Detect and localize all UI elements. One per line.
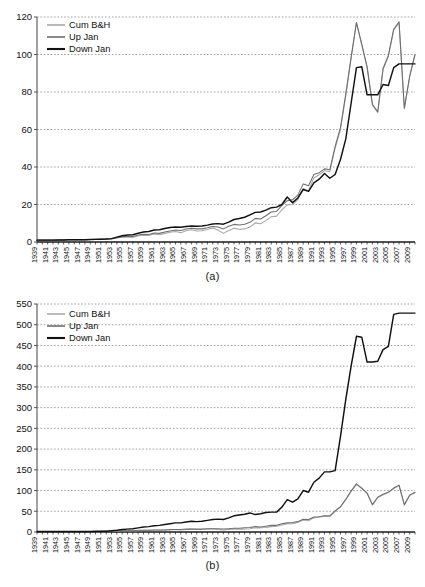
x-tick-label: 1965 [168,247,177,263]
x-tick-label: 1943 [51,247,60,263]
y-tick-label: 200 [16,443,32,454]
x-tick-label: 2005 [381,247,390,263]
x-tick-label: 1955 [115,247,124,263]
legend-label-0: Cum B&H [69,309,110,319]
x-tick-label: 2003 [371,537,380,553]
x-tick-label: 1959 [136,537,145,553]
x-tick-label: 1967 [179,537,188,553]
x-tick-label: 1965 [168,537,177,553]
figure-container: 0204060801001201939194119431945194719491… [0,0,425,587]
x-tick-label: 1949 [83,537,92,553]
x-tick-label: 1949 [83,247,92,263]
chart-panel-b: 0501001502002503003504004505005501939194… [0,290,425,587]
x-tick-label: 1945 [62,537,71,553]
x-tick-label: 1951 [94,247,103,263]
x-tick-label: 1995 [328,247,337,263]
y-ticks-a: 020406080100120 [16,11,37,247]
y-tick-label: 450 [16,340,32,351]
x-tick-labels-b: 1939194119431945194719491951195319551957… [30,537,412,553]
chart-a: 0204060801001201939194119431945194719491… [0,0,425,290]
x-tick-label: 1999 [349,537,358,553]
x-tick-label: 2003 [371,247,380,263]
x-tick-label: 1963 [158,537,167,553]
y-tick-label: 50 [21,506,32,517]
y-tick-label: 150 [16,464,32,475]
x-tick-label: 1991 [307,247,316,263]
y-tick-label: 350 [16,381,32,392]
x-tick-label: 1999 [349,247,358,263]
y-tick-label: 40 [21,161,32,172]
y-tick-label: 60 [21,124,32,135]
legend-label-2: Down Jan [69,44,110,54]
chart-b: 0501001502002503003504004505005501939194… [0,290,425,587]
x-tick-label: 1961 [147,247,156,263]
x-tick-label: 2001 [360,247,369,263]
y-tick-label: 120 [16,11,32,22]
x-tick-label: 1985 [275,537,284,553]
x-tick-label: 1957 [126,247,135,263]
x-tick-label: 1979 [243,537,252,553]
x-tick-label: 1975 [222,537,231,553]
x-tick-label: 1941 [41,247,50,263]
x-tick-label: 2007 [392,247,401,263]
x-tick-label: 2005 [381,537,390,553]
legend-label-1: Up Jan [69,32,98,42]
legend-label-0: Cum B&H [69,20,110,30]
y-tick-label: 80 [21,86,32,97]
x-tick-label: 1951 [94,537,103,553]
x-tick-label: 1991 [307,537,316,553]
x-tick-label: 2009 [403,537,412,553]
x-tick-label: 1997 [339,247,348,263]
x-tick-label: 1959 [136,247,145,263]
x-tick-label: 1971 [200,247,209,263]
y-tick-label: 550 [16,298,32,309]
x-tick-label: 1953 [105,537,114,553]
x-tick-label: 1969 [190,537,199,553]
x-tick-label: 1977 [232,537,241,553]
chart-panel-a: 0204060801001201939194119431945194719491… [0,0,425,290]
x-tick-label: 1939 [30,247,39,263]
x-tick-label: 1983 [264,537,273,553]
x-tick-label: 1989 [296,247,305,263]
x-tick-label: 1971 [200,537,209,553]
x-tick-label: 1975 [222,247,231,263]
caption-a: (a) [0,270,425,282]
x-tick-label: 1955 [115,537,124,553]
x-tick-label: 1981 [254,247,263,263]
y-tick-label: 300 [16,402,32,413]
x-tick-label: 1969 [190,247,199,263]
x-tick-label: 1995 [328,537,337,553]
x-tick-label: 1967 [179,247,188,263]
y-tick-label: 400 [16,361,32,372]
y-tick-label: 0 [27,236,32,247]
x-tick-label: 1993 [317,247,326,263]
legend-label-1: Up Jan [69,321,98,331]
x-tick-label: 1993 [317,537,326,553]
x-tick-label: 1983 [264,247,273,263]
x-tick-label: 1945 [62,247,71,263]
x-tick-label: 1987 [286,247,295,263]
x-tick-label: 1981 [254,537,263,553]
x-tick-label: 1947 [73,247,82,263]
x-tick-label: 1987 [286,537,295,553]
x-tick-label: 1947 [73,537,82,553]
x-tick-label: 1979 [243,247,252,263]
y-tick-label: 0 [27,526,32,537]
y-ticks-b: 050100150200250300350400450500550 [16,298,37,537]
y-tick-label: 100 [16,49,32,60]
x-tick-label: 1973 [211,537,220,553]
x-tick-label: 1961 [147,537,156,553]
y-tick-label: 500 [16,319,32,330]
x-tick-label: 2007 [392,537,401,553]
x-tick-label: 2001 [360,537,369,553]
x-tick-label: 1939 [30,537,39,553]
x-tick-label: 2009 [403,247,412,263]
x-tick-label: 1943 [51,537,60,553]
x-tick-label: 1977 [232,247,241,263]
y-tick-label: 100 [16,485,32,496]
y-tick-label: 250 [16,423,32,434]
x-tick-label: 1985 [275,247,284,263]
x-tick-label: 1941 [41,537,50,553]
x-tick-label: 1963 [158,247,167,263]
x-tick-label: 1997 [339,537,348,553]
